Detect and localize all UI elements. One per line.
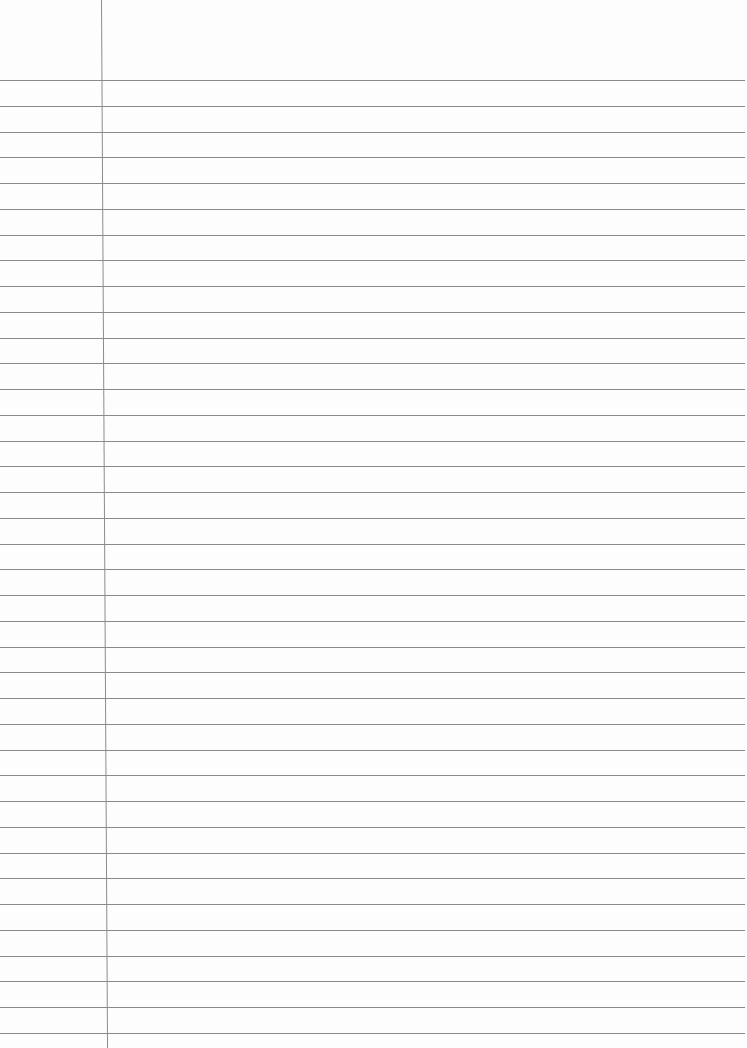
ruled-line [0, 286, 745, 287]
ruled-line [0, 363, 745, 364]
ruled-line [0, 1007, 745, 1008]
ruled-line [0, 492, 745, 493]
ruled-line [0, 595, 745, 596]
ruled-line [0, 415, 745, 416]
ruled-line [0, 312, 745, 313]
ruled-line [0, 827, 745, 828]
ruled-line [0, 1033, 745, 1034]
ruled-line [0, 878, 745, 879]
ruled-line [0, 389, 745, 390]
ruled-line [0, 775, 745, 776]
ruled-line [0, 518, 745, 519]
ruled-line [0, 157, 745, 158]
ruled-line [0, 80, 745, 81]
ruled-line [0, 441, 745, 442]
ruled-line [0, 183, 745, 184]
ruled-line [0, 260, 745, 261]
ruled-line [0, 647, 745, 648]
ruled-line [0, 338, 745, 339]
ruled-line [0, 209, 745, 210]
ruled-line [0, 698, 745, 699]
ruled-line [0, 930, 745, 931]
ruled-line [0, 801, 745, 802]
ruled-line [0, 904, 745, 905]
ruled-line [0, 750, 745, 751]
ruled-line [0, 853, 745, 854]
ruled-line [0, 235, 745, 236]
ruled-line [0, 106, 745, 107]
ruled-line [0, 621, 745, 622]
lined-paper-sheet [0, 0, 747, 1048]
ruled-line [0, 981, 745, 982]
ruled-line [0, 544, 745, 545]
ruled-line [0, 672, 745, 673]
ruled-line [0, 466, 745, 467]
ruled-line [0, 724, 745, 725]
ruled-line [0, 569, 745, 570]
ruled-line [0, 956, 745, 957]
ruled-line [0, 132, 745, 133]
